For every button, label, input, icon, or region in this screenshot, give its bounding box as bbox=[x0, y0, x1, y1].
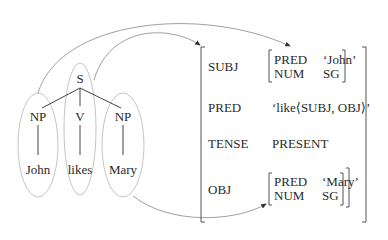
node-np-john: NP bbox=[30, 110, 47, 124]
arrow-mary-to-obj bbox=[133, 196, 266, 218]
subj-val-pred: ‘John’ bbox=[323, 53, 356, 67]
obj-attr-pred: PRED bbox=[274, 175, 307, 189]
node-v: V bbox=[75, 110, 84, 124]
arrow-s-to-fstructure bbox=[94, 33, 200, 80]
val-tense: PRESENT bbox=[272, 137, 328, 151]
word-john: John bbox=[26, 163, 51, 177]
obj-val-num: SG bbox=[322, 189, 339, 203]
subj-attr-num: NUM bbox=[274, 67, 304, 81]
obj-attr-num: NUM bbox=[274, 189, 304, 203]
attr-obj: OBJ bbox=[208, 183, 231, 197]
attr-pred: PRED bbox=[208, 101, 241, 115]
attr-tense: TENSE bbox=[208, 137, 248, 151]
subj-attr-pred: PRED bbox=[274, 53, 307, 67]
obj-val-pred: ‘Mary’ bbox=[322, 175, 359, 189]
word-likes: likes bbox=[68, 163, 93, 177]
attr-subj: SUBJ bbox=[208, 60, 238, 74]
word-mary: Mary bbox=[109, 163, 137, 177]
subj-val-num: SG bbox=[323, 67, 340, 81]
val-pred: ‘like⟨SUBJ, OBJ⟩’ bbox=[272, 101, 370, 115]
node-s: S bbox=[76, 72, 83, 86]
node-np-mary: NP bbox=[115, 110, 132, 124]
